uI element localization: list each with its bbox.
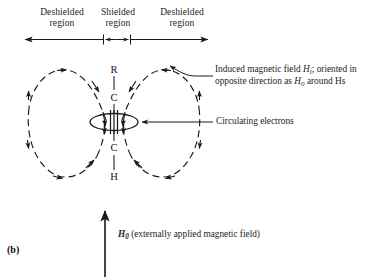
induced-field-line2-prefix: opposite direction as bbox=[215, 76, 294, 86]
applied-field-annotation: H0 (externally applied magnetic field) bbox=[118, 229, 363, 241]
region-scale-bar bbox=[25, 35, 208, 45]
induced-field-line1-prefix: Induced magnetic field bbox=[215, 64, 303, 74]
atom-label-h: H bbox=[106, 171, 122, 182]
atom-label-c-upper: C bbox=[106, 92, 122, 103]
induced-field-subscript: i bbox=[310, 68, 312, 76]
field-line-loop-right bbox=[122, 70, 200, 177]
circulating-electrons-annotation: Circulating electrons bbox=[216, 116, 356, 127]
induced-field-line2-suffix: around Hs bbox=[305, 76, 346, 86]
induced-field-symbol: H bbox=[303, 64, 310, 74]
applied-field-description: (externally applied magnetic field) bbox=[129, 229, 260, 239]
induced-field-line1-suffix: ; oriented in bbox=[312, 64, 357, 74]
field-line-arrowheads-left bbox=[28, 70, 106, 179]
induced-field-annotation: Induced magnetic field Hi; oriented in o… bbox=[215, 64, 365, 89]
field-line-arrowheads-right bbox=[123, 70, 201, 179]
applied-field-h-subscript: 0 bbox=[125, 233, 129, 241]
induced-field-leader bbox=[170, 66, 213, 76]
induced-field-line2: opposite direction as Ho around Hs bbox=[215, 76, 365, 88]
atom-label-r: R bbox=[106, 64, 122, 75]
atom-label-c-lower: C bbox=[106, 142, 122, 153]
induced-field-line1: Induced magnetic field Hi; oriented in bbox=[215, 64, 365, 76]
applied-field-symbol-inline: H bbox=[294, 76, 301, 86]
applied-field-subscript-inline: o bbox=[301, 80, 305, 88]
figure-panel: Deshielded region Shielded region Deshie… bbox=[0, 0, 366, 277]
figure-label: (b) bbox=[7, 244, 19, 255]
field-line-loop-left bbox=[28, 70, 106, 177]
